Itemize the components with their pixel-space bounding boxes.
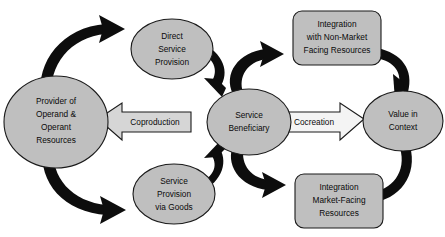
node-integration-non-market[interactable]: Integration with Non-Market Facing Resou… <box>293 11 381 65</box>
band-arrow-cocreation: Cocreation <box>288 103 364 140</box>
diagram-canvas: Coproduction Cocreation Provider of Oper… <box>0 0 445 237</box>
node-integration-market-facing-line-3: Resources <box>319 208 359 218</box>
node-value-in-context-line-1: Value in <box>388 109 418 119</box>
node-service-beneficiary-line-2: Beneficiary <box>228 123 270 133</box>
node-provider-line-3: Operant <box>41 122 72 132</box>
node-service-provision-via-goods[interactable]: Service Provision via Goods <box>133 164 215 224</box>
node-integration-market-facing[interactable]: Integration Market-Facing Resources <box>295 174 383 228</box>
band-arrow-coproduction-label: Coproduction <box>130 117 180 127</box>
flow-arrow-service-beneficiary-to-integration-non-market <box>230 41 284 94</box>
node-integration-non-market-line-2: with Non-Market <box>306 32 368 42</box>
node-integration-non-market-line-1: Integration <box>317 19 357 29</box>
band-arrow-cocreation-label: Cocreation <box>294 117 335 127</box>
node-provider[interactable]: Provider of Operand & Operant Resources <box>4 76 108 168</box>
node-service-provision-via-goods-line-1: Service <box>160 176 188 186</box>
service-ecosystem-diagram: Coproduction Cocreation Provider of Oper… <box>0 0 445 237</box>
node-direct-service-provision[interactable]: Direct Service Provision <box>131 19 213 79</box>
node-provider-line-1: Provider of <box>36 96 77 106</box>
node-integration-market-facing-line-2: Market-Facing <box>312 195 365 205</box>
node-integration-non-market-line-3: Facing Resources <box>304 45 371 55</box>
node-integration-market-facing-line-1: Integration <box>319 182 359 192</box>
node-direct-service-provision-line-3: Provision <box>155 57 190 67</box>
node-value-in-context[interactable]: Value in Context <box>363 91 443 151</box>
node-provider-line-2: Operand & <box>36 109 77 119</box>
node-value-in-context-line-2: Context <box>389 122 418 132</box>
node-service-beneficiary-line-1: Service <box>235 110 263 120</box>
band-arrow-coproduction: Coproduction <box>98 103 191 140</box>
node-provider-line-4: Resources <box>36 135 76 145</box>
node-service-provision-via-goods-line-2: Provision <box>157 189 192 199</box>
node-direct-service-provision-line-2: Service <box>158 44 186 54</box>
node-service-beneficiary[interactable]: Service Beneficiary <box>207 89 291 155</box>
node-service-provision-via-goods-line-3: via Goods <box>155 202 192 212</box>
node-direct-service-provision-line-1: Direct <box>161 31 183 41</box>
